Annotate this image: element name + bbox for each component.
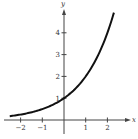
y-tick-label: 4 — [56, 29, 61, 37]
x-tick-label: 2 — [105, 124, 109, 132]
x-axis-label: x — [132, 116, 136, 124]
exponential-chart: x y −2−112 1234 — [0, 0, 138, 139]
data-curve — [10, 13, 114, 117]
x-tick-label: −2 — [15, 124, 25, 132]
y-tick-label: 2 — [56, 73, 60, 81]
x-tick-label: −1 — [37, 124, 47, 132]
y-axis-arrow-icon — [62, 9, 66, 15]
y-ticks: 1234 — [56, 29, 67, 102]
x-axis-arrow-icon — [125, 118, 131, 122]
y-tick-label: 3 — [56, 51, 60, 59]
x-tick-label: 1 — [83, 124, 87, 132]
y-axis-label: y — [60, 0, 66, 8]
